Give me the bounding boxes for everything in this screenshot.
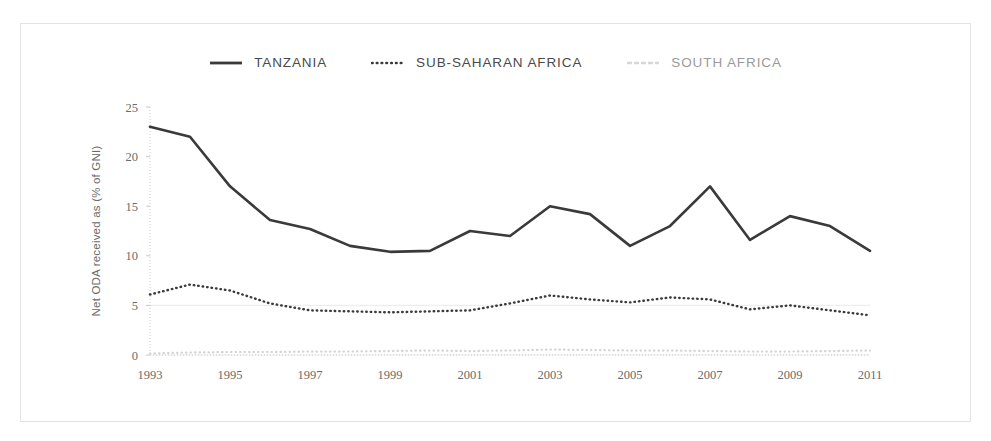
series-line-sub-saharan-africa bbox=[150, 285, 870, 316]
series-line-tanzania bbox=[150, 127, 870, 252]
series-line-south-africa bbox=[150, 350, 870, 354]
y-tick-label: 5 bbox=[132, 299, 138, 313]
y-tick-label: 10 bbox=[126, 249, 139, 263]
chart-plot-area: 0510152025 19931995199719992001200320052… bbox=[0, 0, 991, 441]
x-tick-label: 1993 bbox=[138, 368, 163, 382]
x-tick-label: 2003 bbox=[538, 368, 563, 382]
grid-lines bbox=[150, 305, 870, 355]
x-tick-label: 1995 bbox=[218, 368, 243, 382]
x-tick-label: 2005 bbox=[618, 368, 643, 382]
y-tick-label: 0 bbox=[132, 349, 138, 363]
x-tick-label: 1999 bbox=[378, 368, 403, 382]
y-tick-label: 15 bbox=[126, 200, 139, 214]
x-tick-label: 2009 bbox=[778, 368, 803, 382]
y-axis-title: Net ODA received as (% of GNI) bbox=[90, 146, 102, 317]
y-axis: 0510152025 bbox=[126, 101, 151, 363]
series-lines bbox=[150, 127, 870, 354]
x-tick-label: 2001 bbox=[458, 368, 483, 382]
y-axis-title-text: Net ODA received as (% of GNI) bbox=[90, 146, 102, 317]
y-tick-label: 25 bbox=[126, 101, 139, 115]
x-tick-label: 2007 bbox=[698, 368, 723, 382]
x-axis: 1993199519971999200120032005200720092011 bbox=[138, 355, 883, 382]
x-tick-label: 2011 bbox=[858, 368, 883, 382]
y-tick-label: 20 bbox=[126, 150, 139, 164]
x-tick-label: 1997 bbox=[298, 368, 323, 382]
chart-figure: TANZANIA SUB-SAHARAN AFRICA SOUTH AFRICA… bbox=[0, 0, 991, 441]
